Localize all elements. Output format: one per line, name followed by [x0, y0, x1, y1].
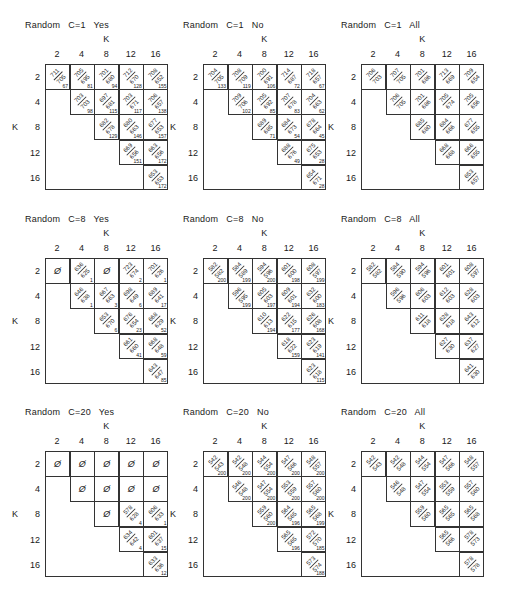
cell-k8-k16: 565568 — [459, 501, 484, 527]
fraction: 547566 — [438, 453, 457, 472]
column-axis-label: K — [419, 421, 425, 431]
row-header-8: 8 — [342, 509, 356, 519]
cell-k4-k8: 547554 — [410, 476, 435, 502]
cell-k2-k8: 544554 — [410, 451, 435, 477]
fraction: 559560 — [413, 504, 432, 523]
cell-k4-k12: 553559 — [435, 476, 460, 502]
panel-title: Random C=20 All — [341, 407, 510, 417]
fraction: 565566 — [438, 529, 457, 548]
cell-k8-k8: 559560 — [410, 501, 435, 527]
cell-k2-k2: 542543 — [361, 451, 386, 477]
fraction: 565565 — [438, 504, 457, 523]
column-header-2: 2 — [361, 436, 385, 446]
fraction: 578573 — [462, 529, 481, 548]
row-header-2: 2 — [342, 459, 356, 469]
column-header-4: 4 — [386, 436, 410, 446]
fraction: 542543 — [364, 453, 383, 472]
cell-k2-k16: 548557 — [459, 451, 484, 477]
row-header-16: 16 — [342, 560, 356, 570]
row-axis-label: K — [328, 509, 334, 519]
fraction: 542548 — [389, 453, 408, 472]
column-header-12: 12 — [435, 436, 459, 446]
fraction: 557560 — [462, 479, 481, 498]
column-header-16: 16 — [459, 436, 483, 446]
cell-k2-k4: 542548 — [386, 451, 411, 477]
cell-k16-k16: 578578 — [459, 552, 484, 578]
cell-k4-k4: 546548 — [386, 476, 411, 502]
fraction: 544554 — [413, 453, 432, 472]
cell-k12-k12: 565566 — [435, 527, 460, 553]
panel-9: Random C=20 AllKK24812162481216542543542… — [0, 0, 510, 600]
cell-k8-k12: 565565 — [435, 501, 460, 527]
fraction: 547554 — [413, 479, 432, 498]
cell-k4-k16: 557560 — [459, 476, 484, 502]
fraction: 578578 — [462, 554, 481, 573]
cell-k2-k12: 547566 — [435, 451, 460, 477]
fraction: 548557 — [462, 453, 481, 472]
fraction: 553559 — [438, 479, 457, 498]
fraction: 565568 — [462, 504, 481, 523]
row-header-12: 12 — [342, 535, 356, 545]
column-header-8: 8 — [410, 436, 434, 446]
fraction: 546548 — [389, 479, 408, 498]
row-header-4: 4 — [342, 484, 356, 494]
cell-k12-k16: 578573 — [459, 527, 484, 553]
